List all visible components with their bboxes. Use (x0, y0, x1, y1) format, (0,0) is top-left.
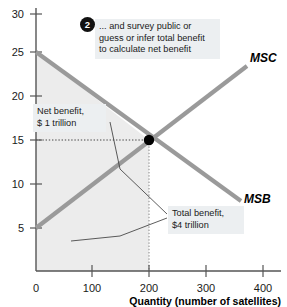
msc-label: MSC (250, 51, 277, 65)
x-tick-label-400: 400 (254, 282, 272, 294)
callout-line-2: guess or infer total benefit (99, 33, 216, 45)
step-badge-2: 2 (80, 17, 95, 32)
x-tick-label-0: 0 (33, 282, 39, 294)
y-tick-label-10: 10 (12, 178, 24, 190)
x-tick-label-200: 200 (140, 282, 158, 294)
total-benefit-line-1: Total benefit, (172, 208, 240, 220)
callout-line-3: to calculate net benefit (99, 44, 216, 56)
equilibrium-point (144, 135, 154, 145)
x-tick-label-100: 100 (83, 282, 101, 294)
net-benefit-line-2: $ 1 trillion (37, 118, 102, 130)
x-tick-label-300: 300 (197, 282, 215, 294)
net-benefit-line-1: Net benefit, (37, 106, 102, 118)
total-benefit-label: Total benefit, $4 trillion (168, 206, 244, 234)
msb-label: MSB (244, 192, 271, 206)
total-benefit-line-2: $4 trillion (172, 220, 240, 232)
chart-figure: 30 25 20 15 10 5 0 100 200 300 400 Quant… (0, 0, 287, 307)
total-benefit-shaded-area (36, 52, 149, 271)
y-tick-label-5: 5 (18, 222, 24, 234)
y-tick-label-15: 15 (12, 134, 24, 146)
y-tick-label-30: 30 (12, 8, 24, 20)
y-tick-label-25: 25 (12, 46, 24, 58)
net-benefit-label: Net benefit, $ 1 trillion (33, 104, 106, 132)
step-2-callout: ... and survey public or guess or infer … (95, 19, 220, 59)
x-axis-title: Quantity (number of satellites) (129, 295, 281, 307)
callout-line-1: ... and survey public or (99, 21, 216, 33)
y-tick-label-20: 20 (12, 90, 24, 102)
